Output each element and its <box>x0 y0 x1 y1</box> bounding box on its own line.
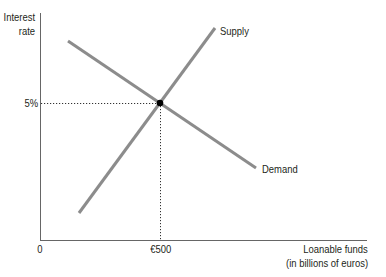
loanable-funds-chart <box>0 0 386 277</box>
x-tick-500: €500 <box>150 243 171 255</box>
x-tick-0: 0 <box>37 243 42 255</box>
demand-label: Demand <box>262 163 298 175</box>
supply-curve <box>79 28 215 213</box>
x-axis-label-line1: Loanable funds <box>303 243 368 255</box>
x-axis-label-line2: (in billions of euros) <box>286 257 368 269</box>
y-axis-label-line2: rate <box>19 25 35 37</box>
y-tick-5-percent: 5% <box>24 97 38 109</box>
supply-label: Supply <box>220 25 249 37</box>
equilibrium-point <box>157 100 164 107</box>
y-axis-label-line1: Interest <box>3 11 35 23</box>
